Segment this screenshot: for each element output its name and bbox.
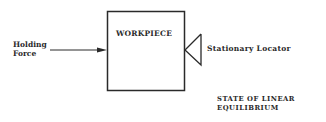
stationary-locator-label: Stationary Locator <box>207 44 291 53</box>
equilibrium-caption: STATE OF LINEAR EQUILIBRIUM <box>217 95 295 113</box>
equilibrium-caption-line1: STATE OF LINEAR <box>217 95 295 104</box>
workpiece-label: WORKPIECE <box>116 29 172 38</box>
equilibrium-caption-line2: EQUILIBRIUM <box>217 104 295 113</box>
holding-force-label-line2: Force <box>13 49 47 58</box>
workpiece-box <box>108 12 185 91</box>
holding-force-label: Holding Force <box>13 40 47 58</box>
stationary-locator-triangle-icon <box>185 34 201 65</box>
holding-force-arrowhead-icon <box>97 48 107 53</box>
holding-force-label-line1: Holding <box>13 40 47 49</box>
